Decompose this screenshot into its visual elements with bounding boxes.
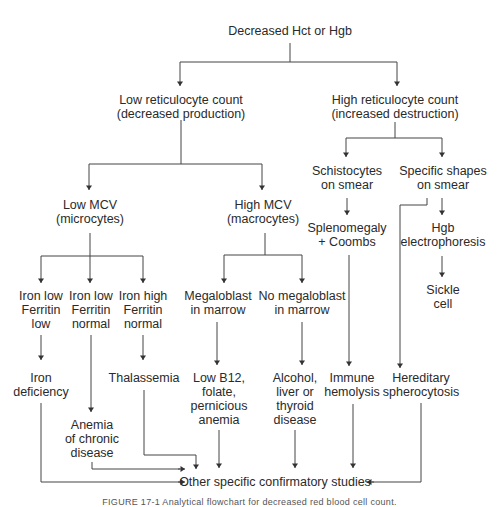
node-label: Thalassemia [109, 371, 180, 385]
node-no-megaloblast: No megaloblast in marrow [259, 289, 346, 317]
node-label: Iron low [69, 289, 113, 303]
node-label: normal [119, 317, 168, 331]
node-label: Low B12, [191, 371, 248, 385]
node-other-confirmatory-studies: Other specific confirmatory studies [179, 475, 371, 489]
node-alcohol-liver-thyroid: Alcohol, liver or thyroid disease [273, 371, 317, 427]
node-high-reticulocyte: High reticulocyte count (increased destr… [331, 93, 458, 121]
node-label: Sickle [426, 283, 459, 297]
node-label: in marrow [259, 303, 346, 317]
node-label: Anemia [65, 418, 119, 432]
node-label: Megaloblast [184, 289, 251, 303]
node-label: Splenomegaly [307, 221, 386, 235]
node-label: normal [69, 317, 113, 331]
node-label: (microcytes) [56, 212, 124, 226]
node-hgb-electrophoresis: Hgb electrophoresis [401, 221, 486, 249]
node-low-reticulocyte: Low reticulocyte count (decreased produc… [117, 93, 246, 121]
node-label: folate, [191, 385, 248, 399]
node-iron-low-ferritin-normal: Iron low Ferritin normal [69, 289, 113, 331]
node-label: Iron high [119, 289, 168, 303]
node-label: on smear [399, 178, 487, 192]
node-label: disease [65, 446, 119, 460]
node-hereditary-spherocytosis: Hereditary spherocytosis [383, 371, 459, 399]
node-label: High reticulocyte count [331, 93, 458, 107]
node-label: low [19, 317, 63, 331]
node-label: Alcohol, [273, 371, 317, 385]
node-label: No megaloblast [259, 289, 346, 303]
node-label: Hereditary [383, 371, 459, 385]
node-label: pernicious [191, 399, 248, 413]
node-specific-shapes: Specific shapes on smear [399, 164, 487, 192]
node-label: in marrow [184, 303, 251, 317]
node-label: Immune [324, 371, 380, 385]
figure-caption: FIGURE 17-1 Analytical flowchart for dec… [102, 497, 397, 507]
node-label: Decreased Hct or Hgb [228, 24, 352, 38]
node-label: cell [426, 297, 459, 311]
node-low-mcv: Low MCV (microcytes) [56, 198, 124, 226]
node-immune-hemolysis: Immune hemolysis [324, 371, 380, 399]
node-sickle-cell: Sickle cell [426, 283, 459, 311]
node-label: of chronic [65, 432, 119, 446]
node-label: electrophoresis [401, 235, 486, 249]
node-megaloblast: Megaloblast in marrow [184, 289, 251, 317]
node-label: on smear [312, 178, 382, 192]
node-label: + Coombs [307, 235, 386, 249]
node-label: (macrocytes) [227, 212, 299, 226]
node-label: anemia [191, 413, 248, 427]
node-label: thyroid [273, 399, 317, 413]
node-label: deficiency [13, 385, 69, 399]
node-label: liver or [273, 385, 317, 399]
node-label: Ferritin [19, 303, 63, 317]
node-label: disease [273, 413, 317, 427]
node-label: Iron low [19, 289, 63, 303]
node-label: spherocytosis [383, 385, 459, 399]
node-label: High MCV [227, 198, 299, 212]
node-anemia-chronic-disease: Anemia of chronic disease [65, 418, 119, 460]
node-schistocytes: Schistocytes on smear [312, 164, 382, 192]
node-label: Low MCV [56, 198, 124, 212]
node-splenomegaly: Splenomegaly + Coombs [307, 221, 386, 249]
node-label: Other specific confirmatory studies [179, 475, 371, 489]
node-iron-low-ferritin-low: Iron low Ferritin low [19, 289, 63, 331]
node-label: Iron [13, 371, 69, 385]
node-low-b12-folate: Low B12, folate, pernicious anemia [191, 371, 248, 427]
node-iron-high-ferritin-normal: Iron high Ferritin normal [119, 289, 168, 331]
node-label: Low reticulocyte count [117, 93, 246, 107]
node-label: Hgb [401, 221, 486, 235]
node-iron-deficiency: Iron deficiency [13, 371, 69, 399]
node-label: Ferritin [119, 303, 168, 317]
node-label: (increased destruction) [331, 107, 458, 121]
node-high-mcv: High MCV (macrocytes) [227, 198, 299, 226]
node-thalassemia: Thalassemia [109, 371, 180, 385]
node-label: Ferritin [69, 303, 113, 317]
node-label: hemolysis [324, 385, 380, 399]
node-decreased-hct-hgb: Decreased Hct or Hgb [228, 24, 352, 38]
node-label: (decreased production) [117, 107, 246, 121]
node-label: Schistocytes [312, 164, 382, 178]
node-label: Specific shapes [399, 164, 487, 178]
